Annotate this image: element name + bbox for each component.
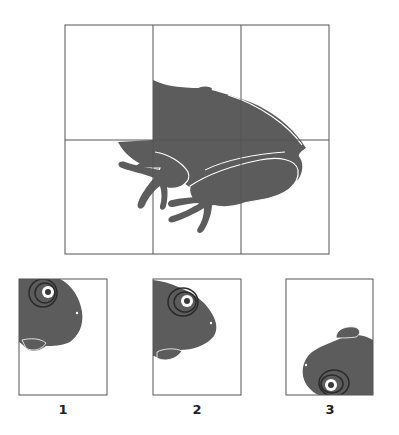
main-grid: [65, 25, 329, 254]
option-3-piece[interactable]: [286, 279, 373, 396]
frog-body: [118, 80, 306, 233]
option-3-label: 3: [315, 402, 345, 417]
puzzle-figure: [0, 0, 399, 435]
option-2-piece[interactable]: [153, 279, 241, 395]
option-1-label: 1: [48, 402, 78, 417]
option-2-label: 2: [182, 402, 212, 417]
option-1-piece[interactable]: [19, 279, 107, 395]
